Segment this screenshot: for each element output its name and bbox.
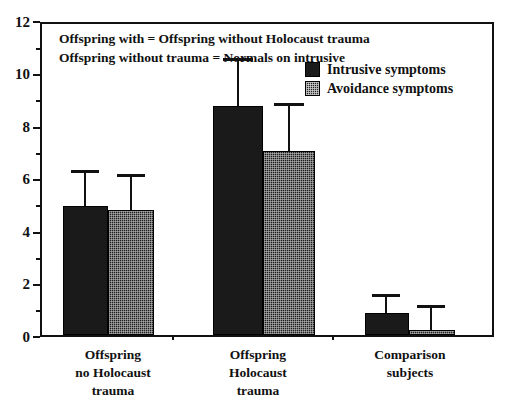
bar-chart-figure: 12 10 8 6 4 2 0 [0,0,509,409]
legend-label-intrusive: Intrusive symptoms [327,63,446,77]
error-bar-cap-avoidance-group3 [417,305,445,308]
x-axis-label-group2-line2: Holocaust [198,364,318,382]
x-axis-label-group2-line3: trauma [198,382,318,400]
plot-area: Offspring with = Offspring without Holoc… [40,22,494,337]
x-tick-group2-group3 [332,335,334,340]
legend-item-avoidance: Avoidance symptoms [305,79,453,98]
error-bar-cap-intrusive-group3 [372,294,400,297]
legend-item-intrusive: Intrusive symptoms [305,60,453,79]
x-axis-label-group1: Offspring no Holocaust trauma [46,346,180,399]
error-bar-cap-avoidance-group1 [117,174,145,177]
legend-swatch-avoidance-icon [305,81,320,96]
bar-intrusive-group1 [63,206,108,335]
x-axis-label-group1-line3: trauma [46,382,180,400]
x-axis-label-group3-line2: subjects [350,364,470,382]
chart-legend: Intrusive symptoms Avoidance symptoms [305,60,453,98]
y-tick-label-6: 6 [4,172,30,187]
y-tick-label-2: 2 [4,277,30,292]
y-tick-label-10: 10 [4,67,30,82]
y-tick-label-12: 12 [4,15,30,30]
x-tick-group1-group2 [172,335,174,340]
error-bar-stem-intrusive-group1 [84,171,86,206]
annotation-line-1: Offspring with = Offspring without Holoc… [59,30,370,49]
legend-label-avoidance: Avoidance symptoms [327,82,453,96]
y-tick-major-2 [33,284,40,286]
bar-intrusive-group3 [365,313,409,335]
error-bar-cap-avoidance-group2 [274,103,304,106]
y-tick-major-0 [33,336,40,338]
x-axis-label-group3-line1: Comparison [350,346,470,364]
legend-swatch-intrusive-icon [305,62,320,77]
bar-avoidance-group3 [409,330,455,335]
y-tick-label-4: 4 [4,225,30,240]
x-axis-label-group3: Comparison subjects [350,346,470,382]
x-axis-label-group2-line1: Offspring [198,346,318,364]
error-bar-stem-avoidance-group3 [430,305,432,330]
bar-avoidance-group2 [263,151,315,335]
bar-avoidance-group1 [108,210,154,335]
error-bar-cap-intrusive-group2 [223,58,253,61]
y-tick-label-0: 0 [4,330,30,345]
y-tick-major-12 [33,21,40,23]
y-tick-major-10 [33,74,40,76]
error-bar-stem-intrusive-group2 [237,58,239,106]
y-tick-major-8 [33,127,40,129]
bar-intrusive-group2 [213,106,263,335]
error-bar-cap-intrusive-group1 [71,170,99,173]
y-tick-major-4 [33,232,40,234]
y-tick-label-8: 8 [4,120,30,135]
x-axis-label-group1-line2: no Holocaust [46,364,180,382]
y-tick-major-6 [33,179,40,181]
x-axis-label-group1-line1: Offspring [46,346,180,364]
error-bar-stem-avoidance-group2 [288,103,290,151]
error-bar-stem-avoidance-group1 [130,175,132,210]
x-axis-label-group2: Offspring Holocaust trauma [198,346,318,399]
